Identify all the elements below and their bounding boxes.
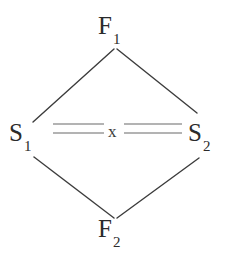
node-f1-base: F [98,12,112,39]
edge-s1-f2 [34,157,114,218]
node-f1-subscript: 1 [113,31,121,47]
node-s2: S2 [188,120,209,150]
diagram-canvas: F1 S1 S2 F2 x [0,0,231,263]
node-s1-base: S [9,119,23,146]
edge-s2-f2 [117,158,199,218]
edge-f1-s1 [33,49,114,122]
edge-f1-s2 [117,49,197,113]
node-s1-subscript: 1 [24,138,32,154]
node-f1: F1 [98,13,119,43]
node-s2-subscript: 2 [203,138,211,154]
node-s2-base: S [188,119,202,146]
node-f2-subscript: 2 [113,234,121,250]
cross-product-label: x [108,123,117,140]
node-s1: S1 [9,120,30,150]
node-f2: F2 [98,216,119,246]
node-f2-base: F [98,215,112,242]
